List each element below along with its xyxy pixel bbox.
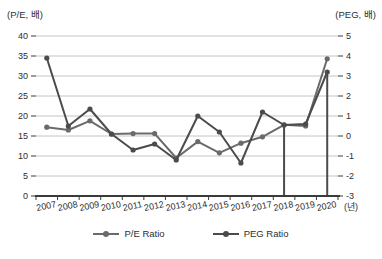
data-point-marker <box>303 121 308 126</box>
right-axis-tick-label: 3 <box>346 71 351 81</box>
data-point-marker <box>87 118 92 123</box>
left-axis-tick-label: 15 <box>18 131 28 141</box>
right-axis-tick-label: -2 <box>346 171 354 181</box>
pe-line-marker-icon <box>93 230 119 238</box>
x-axis-category-label: 2012 <box>143 199 165 213</box>
left-axis-tick-label: 0 <box>23 191 28 201</box>
left-axis-tick-label: 5 <box>23 171 28 181</box>
data-point-marker <box>238 141 243 146</box>
left-axis-tick-label: 25 <box>18 91 28 101</box>
data-point-marker <box>130 147 135 152</box>
x-axis-category-label: 2020 <box>316 199 338 213</box>
right-axis-tick-label: 4 <box>346 51 351 61</box>
data-point-marker <box>174 157 179 162</box>
left-axis-tick-label: 20 <box>18 111 28 121</box>
x-axis-category-label: 2011 <box>122 199 143 213</box>
right-axis-title: (PEG, 배) <box>335 7 376 21</box>
x-axis-category-label: 2010 <box>100 199 122 213</box>
legend-label-peg: PEG Ratio <box>244 228 289 239</box>
left-axis-tick-label: 40 <box>18 31 28 41</box>
right-axis-tick-label: 2 <box>346 91 351 101</box>
data-point-marker <box>325 56 330 61</box>
x-axis-category-label: 2007 <box>35 199 57 213</box>
chart-legend: P/E Ratio PEG Ratio <box>0 228 382 239</box>
data-point-marker <box>87 106 92 111</box>
x-axis-category-label: 2009 <box>78 199 100 213</box>
data-point-marker <box>260 134 265 139</box>
data-point-marker <box>325 69 330 74</box>
chart-plot-area: 0510152025303540-3-2-1012345200720082009… <box>0 0 382 226</box>
legend-label-pe: P/E Ratio <box>124 228 164 239</box>
left-axis-tick-label: 30 <box>18 71 28 81</box>
data-point-marker <box>44 125 49 130</box>
left-axis-tick-label: 10 <box>18 151 28 161</box>
peg-pe-ratio-chart: (P/E, 배) (PEG, 배) 0510152025303540-3-2-1… <box>0 0 382 259</box>
x-axis-category-label: 2019 <box>294 199 316 213</box>
data-point-marker <box>109 131 114 136</box>
data-point-marker <box>260 109 265 114</box>
left-axis-tick-label: 35 <box>18 51 28 61</box>
data-point-marker <box>281 122 286 127</box>
x-axis-category-label: 2016 <box>229 199 251 213</box>
data-point-marker <box>195 139 200 144</box>
right-axis-tick-label: 0 <box>346 131 351 141</box>
x-axis-category-label: 2008 <box>57 199 79 213</box>
left-axis-title: (P/E, 배) <box>7 7 43 21</box>
legend-item-pe: P/E Ratio <box>93 228 164 239</box>
peg-line-marker-icon <box>213 230 239 238</box>
data-point-marker <box>238 160 243 165</box>
data-point-marker <box>152 131 157 136</box>
x-axis-category-label: 2017 <box>251 199 273 213</box>
data-point-marker <box>217 129 222 134</box>
data-point-marker <box>217 150 222 155</box>
data-point-marker <box>152 141 157 146</box>
data-point-marker <box>66 123 71 128</box>
x-axis-category-label: 2018 <box>273 199 295 213</box>
x-axis-category-label: 2013 <box>165 199 187 213</box>
legend-item-peg: PEG Ratio <box>213 228 289 239</box>
data-point-marker <box>195 113 200 118</box>
x-axis-category-label: 2014 <box>186 199 208 213</box>
data-point-marker <box>130 131 135 136</box>
right-axis-tick-label: 5 <box>346 31 351 41</box>
data-point-marker <box>44 55 49 60</box>
right-axis-tick-label: -1 <box>346 151 354 161</box>
x-axis-category-label: 2015 <box>208 199 230 213</box>
right-axis-tick-label: 1 <box>346 111 351 121</box>
x-axis-unit-label: (년) <box>344 200 358 213</box>
